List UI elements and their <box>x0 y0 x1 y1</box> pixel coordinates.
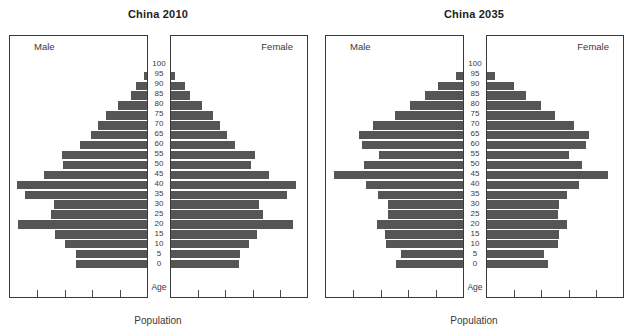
age-tick-label: 70 <box>464 120 486 128</box>
bar <box>487 250 544 258</box>
bar <box>171 101 202 109</box>
age-tick-label: 60 <box>148 140 170 148</box>
age-tick-label: 35 <box>464 190 486 198</box>
bar-row <box>171 200 307 210</box>
bar-row <box>326 249 463 259</box>
bar <box>171 240 249 248</box>
age-tick-label: 45 <box>148 170 170 178</box>
bar-row <box>10 101 147 111</box>
bar-row <box>326 210 463 220</box>
bar <box>487 171 608 179</box>
bar <box>171 131 227 139</box>
bar <box>487 220 567 228</box>
female-panel-label: Female <box>261 41 293 52</box>
male-bars <box>326 61 463 269</box>
age-tick-label: 15 <box>148 230 170 238</box>
age-tick-label: 65 <box>148 130 170 138</box>
bar-row <box>487 71 623 81</box>
axis-tick <box>596 290 597 297</box>
bar <box>171 141 235 149</box>
bar <box>362 141 463 149</box>
bar-row <box>487 160 623 170</box>
female-panel: Female <box>486 35 624 298</box>
age-tick-labels: 1009590858075706560555045403530252015105… <box>148 60 170 268</box>
bar-row <box>10 170 147 180</box>
bar <box>171 111 213 119</box>
age-tick-label: 65 <box>464 130 486 138</box>
bar-row <box>326 190 463 200</box>
bar-row <box>487 91 623 101</box>
bar-row <box>171 150 307 160</box>
bar-row <box>171 111 307 121</box>
male-bars <box>10 61 147 269</box>
bar <box>171 220 293 228</box>
axis-tick <box>225 290 226 297</box>
bar <box>17 181 147 189</box>
bar <box>118 101 147 109</box>
bar-row <box>171 140 307 150</box>
bar-row <box>10 160 147 170</box>
x-axis-title: Population <box>0 315 316 326</box>
bar <box>76 250 147 258</box>
age-tick-label: 5 <box>464 250 486 258</box>
bar <box>136 82 147 90</box>
bar-row <box>10 229 147 239</box>
bar <box>378 191 463 199</box>
bar-row <box>326 101 463 111</box>
age-tick-label: 10 <box>148 240 170 248</box>
bar-row <box>171 219 307 229</box>
bar-row <box>326 81 463 91</box>
bar <box>171 151 255 159</box>
age-tick-label: 55 <box>464 150 486 158</box>
axis-tick <box>37 290 38 297</box>
bar-row <box>10 71 147 81</box>
bar-row <box>171 61 307 71</box>
bar <box>401 250 463 258</box>
population-pyramid-figure: China 2010 Male Female 10095908580757065… <box>0 0 632 332</box>
bar <box>388 200 463 208</box>
bar-row <box>487 120 623 130</box>
bar <box>487 82 514 90</box>
age-axis: 1009590858075706560555045403530252015105… <box>148 35 170 298</box>
age-tick-label: 50 <box>464 160 486 168</box>
bar <box>171 82 185 90</box>
axis-tick <box>569 290 570 297</box>
age-tick-label: 80 <box>464 100 486 108</box>
bar-row <box>326 180 463 190</box>
bar <box>54 200 147 208</box>
bar <box>487 240 558 248</box>
bar <box>171 91 190 99</box>
axis-tick <box>198 290 199 297</box>
bar-row <box>487 81 623 91</box>
bar <box>425 91 463 99</box>
age-tick-label: 30 <box>148 200 170 208</box>
age-tick-label: 100 <box>464 60 486 68</box>
bar-row <box>171 170 307 180</box>
bar-row <box>487 61 623 71</box>
age-axis-caption: Age <box>464 282 486 292</box>
age-tick-label: 20 <box>464 220 486 228</box>
age-tick-label: 45 <box>464 170 486 178</box>
bar-row <box>10 219 147 229</box>
bar <box>487 91 526 99</box>
age-tick-label: 55 <box>148 150 170 158</box>
bar-row <box>171 160 307 170</box>
bar <box>438 82 463 90</box>
male-axis-ticks <box>10 268 147 297</box>
bar-row <box>171 101 307 111</box>
bar <box>487 121 574 129</box>
age-tick-label: 15 <box>464 230 486 238</box>
bar <box>410 101 463 109</box>
bar-row <box>326 91 463 101</box>
male-panel: Male <box>9 35 148 298</box>
bar-row <box>10 239 147 249</box>
age-tick-label: 95 <box>464 70 486 78</box>
bar <box>171 181 296 189</box>
bar-row <box>171 81 307 91</box>
bar-row <box>10 61 147 71</box>
age-tick-label: 5 <box>148 250 170 258</box>
bar-row <box>487 101 623 111</box>
bar-row <box>326 140 463 150</box>
bar <box>334 171 463 179</box>
age-tick-label: 40 <box>148 180 170 188</box>
